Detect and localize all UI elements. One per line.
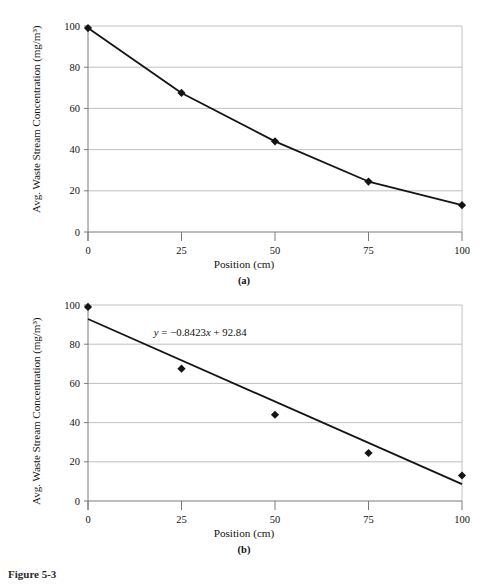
y-tick-label: 60 <box>70 378 81 389</box>
y-tick-label: 20 <box>70 185 81 196</box>
x-tick-label: 75 <box>363 245 374 256</box>
data-point-marker <box>271 137 279 145</box>
panel-label-b: (b) <box>0 544 488 555</box>
x-tick-label: 25 <box>176 245 187 256</box>
figure-caption-label: Figure 5-3 <box>8 568 56 580</box>
series-line <box>88 28 462 205</box>
data-point-marker <box>458 201 466 209</box>
x-tick-label: 50 <box>270 245 281 256</box>
y-tick-label: 0 <box>75 227 80 238</box>
chart-panel-b: Avg. Waste Stream Concentration (mg/m³) … <box>0 292 488 584</box>
plot-area-a: 0204060801000255075100 <box>0 0 488 292</box>
y-tick-label: 60 <box>70 103 81 114</box>
chart-panel-a: Avg. Waste Stream Concentration (mg/m³) … <box>0 0 488 292</box>
trendline-equation: y = −0.8423x + 92.84 <box>153 326 247 338</box>
figure-container: Avg. Waste Stream Concentration (mg/m³) … <box>0 0 488 585</box>
figure-caption: Figure 5-3 <box>8 568 478 584</box>
y-tick-label: 20 <box>70 456 81 467</box>
data-point-marker <box>177 365 185 373</box>
y-tick-label: 0 <box>75 496 80 507</box>
data-point-marker <box>84 303 92 311</box>
data-point-marker <box>458 471 466 479</box>
x-tick-label: 100 <box>454 245 470 256</box>
x-axis-label-b: Position (cm) <box>0 527 488 539</box>
x-tick-label: 0 <box>85 245 90 256</box>
y-tick-label: 40 <box>70 417 81 428</box>
x-tick-label: 0 <box>85 514 90 525</box>
x-tick-label: 25 <box>176 514 187 525</box>
data-point-marker <box>271 411 279 419</box>
x-tick-label: 50 <box>270 514 281 525</box>
x-tick-label: 100 <box>454 514 470 525</box>
data-point-marker <box>364 449 372 457</box>
y-tick-label: 80 <box>70 339 81 350</box>
data-point-marker <box>364 177 372 185</box>
x-axis-label-a: Position (cm) <box>0 258 488 270</box>
plot-area-b: 0204060801000255075100y = −0.8423x + 92.… <box>0 292 488 584</box>
x-tick-label: 75 <box>363 514 374 525</box>
panel-label-a: (a) <box>0 275 488 286</box>
y-tick-label: 100 <box>64 300 80 311</box>
y-tick-label: 80 <box>70 62 81 73</box>
y-tick-label: 100 <box>64 21 80 32</box>
y-tick-label: 40 <box>70 144 81 155</box>
